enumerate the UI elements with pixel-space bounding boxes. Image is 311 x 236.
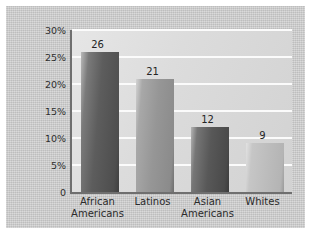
gridline [72,29,292,31]
x-axis-tick-label-line: Americans [163,208,253,220]
bar [246,143,284,192]
bar-value-label: 26 [69,39,127,50]
bar-value-label: 9 [234,130,292,141]
bar [191,127,229,192]
plot-area [70,30,292,194]
bar [81,52,119,192]
x-axis-tick-label-line: Whites [218,196,308,208]
bar [136,79,174,192]
y-axis-tick-label: 5% [38,160,66,171]
y-axis-tick-label: 15% [38,106,66,117]
y-axis-tick-label: 25% [38,52,66,63]
x-axis-tick-label-line: Americans [53,208,143,220]
y-axis-tick-label: 10% [38,133,66,144]
x-axis-tick-label: Whites [218,196,308,208]
bar-value-label: 12 [179,114,237,125]
y-axis-tick-label: 20% [38,79,66,90]
chart-figure: Percentage 05%10%15%20%25%30% 26AfricanA… [0,0,311,236]
y-axis-tick-label: 30% [38,25,66,36]
bar-value-label: 21 [124,66,182,77]
